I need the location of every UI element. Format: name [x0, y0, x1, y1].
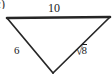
triangle-top-edge [7, 17, 110, 18]
side-label-top: 10 [48, 2, 60, 14]
radical-expression: √8 [76, 44, 87, 57]
radicand-value: 8 [82, 44, 88, 57]
side-label-right: √8 [76, 44, 87, 57]
side-label-left: 6 [14, 45, 20, 56]
triangle-figure: c) 10 6 √8 [0, 0, 112, 79]
